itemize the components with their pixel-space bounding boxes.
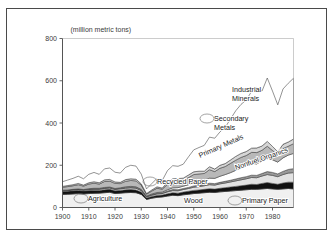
x-tick-label: 1930 xyxy=(133,213,149,220)
x-tick-label: 1970 xyxy=(238,213,254,220)
figure-container: 0200400600800190019101920193019401950196… xyxy=(0,0,335,240)
x-tick-label: 1950 xyxy=(186,213,202,220)
y-tick-label: 600 xyxy=(45,77,57,84)
annotation-label: Industrial xyxy=(232,85,262,94)
annotation-label: Agriculture xyxy=(88,194,122,203)
y-tick-label: 0 xyxy=(53,204,57,211)
annotation-label: Metals xyxy=(214,123,236,132)
annotation-wood: Wood xyxy=(184,196,203,205)
annotation-industrial-minerals: IndustrialMinerals xyxy=(232,85,262,103)
y-tick-label: 400 xyxy=(45,120,57,127)
x-tick-label: 1920 xyxy=(107,213,123,220)
annotation-label: Minerals xyxy=(232,94,260,103)
x-tick-label: 1980 xyxy=(265,213,281,220)
x-tick-label: 1900 xyxy=(55,213,71,220)
stacked-area-chart: 0200400600800190019101920193019401950196… xyxy=(0,0,335,240)
annotation-label: Secondary xyxy=(214,114,249,123)
annotation-label: Recycled Paper xyxy=(157,177,208,186)
annotation-label: Primary Paper xyxy=(242,196,289,205)
x-tick-label: 1960 xyxy=(212,213,228,220)
y-axis-unit-label: (million metric tons) xyxy=(71,26,132,34)
y-tick-label: 800 xyxy=(45,35,57,42)
x-tick-label: 1910 xyxy=(81,213,97,220)
x-tick-label: 1940 xyxy=(160,213,176,220)
annotation-label: Wood xyxy=(184,196,203,205)
y-tick-label: 200 xyxy=(45,162,57,169)
